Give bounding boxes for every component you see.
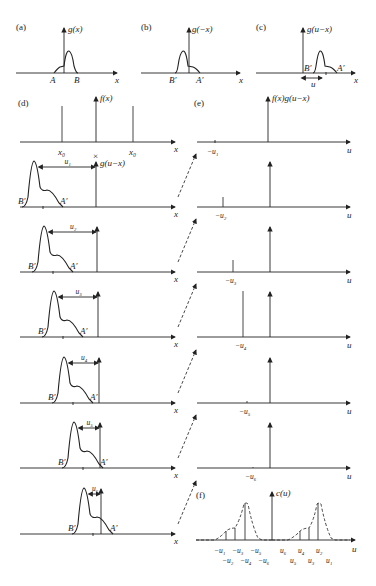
tick-label: −u₅ xyxy=(239,407,251,416)
tick: u₄ xyxy=(298,546,305,555)
shift-label: u₄ xyxy=(81,353,88,362)
panel-f-label: (f) xyxy=(196,490,205,500)
panel-a: (a) g(x) A B x xyxy=(16,22,119,85)
point-A-prime: A′ xyxy=(59,196,68,206)
panel-e-label: (e) xyxy=(194,98,204,108)
panel-a-label: (a) xyxy=(16,22,26,32)
convolution-steps: u₁B′A′xg(u−x)u₂B′A′xu₃B′A′xu₄B′A′xu₅B′A′… xyxy=(18,154,352,546)
step-connector-arrow xyxy=(178,350,196,393)
u-label: u xyxy=(347,275,352,285)
step-connector-arrow xyxy=(178,154,196,197)
step-row-5: u₅B′A′x xyxy=(20,415,196,480)
point-A-prime: A′ xyxy=(69,261,78,271)
point-A-prime: A′ xyxy=(79,326,88,336)
tick: u₂ xyxy=(316,546,323,555)
step-row-6: u₆B′A′x xyxy=(20,481,196,546)
u-label: u xyxy=(347,471,352,481)
tick-neg-u1: −u₁ xyxy=(207,147,219,156)
x-label: x xyxy=(114,75,119,85)
x-label: x xyxy=(173,536,178,546)
point-B: B xyxy=(74,75,80,85)
point-A-prime: A′ xyxy=(99,457,108,467)
product-row-6: −u₆u xyxy=(197,423,352,481)
y-label: f(x)g(u−x) xyxy=(272,93,310,103)
x-label: x xyxy=(238,75,243,85)
point-B-prime: B′ xyxy=(28,261,36,271)
panel-b-label: (b) xyxy=(141,22,152,32)
tick: u₃ xyxy=(308,556,315,565)
panel-e: (e) f(x)g(u−x) −u₁ u xyxy=(194,93,352,156)
tick: u₆ xyxy=(280,546,287,555)
x-label: x xyxy=(353,75,358,85)
y-label: c(u) xyxy=(276,488,291,498)
product-row-4: −u₄u xyxy=(197,291,352,350)
panel-d: (d) f(x) x₀ x₀ × x xyxy=(18,93,178,161)
point-B-prime: B′ xyxy=(68,523,76,533)
tick-x0: x₀ xyxy=(128,147,136,157)
u-label: u xyxy=(347,210,352,220)
tick-label: −u₄ xyxy=(235,341,247,350)
g-curve xyxy=(54,51,78,73)
point-A-prime: A′ xyxy=(195,75,204,85)
point-B-prime: B′ xyxy=(169,75,177,85)
point-A: A xyxy=(49,75,56,85)
panel-c: (c) g(u−x) B′ A′ u x xyxy=(256,22,358,89)
g-reversed-curve xyxy=(175,51,200,73)
product-row-3: −u₃u xyxy=(197,227,352,285)
step-row-2: u₂B′A′x xyxy=(20,219,196,284)
y-label: g(x) xyxy=(68,24,83,34)
tick-label: −u₆ xyxy=(245,472,257,481)
c-left-lobe xyxy=(196,503,272,540)
point-A-prime: A′ xyxy=(109,523,118,533)
product-row-5: −u₅u xyxy=(197,358,352,416)
tick: −u₃ xyxy=(232,546,244,555)
u-label: u xyxy=(347,340,352,350)
tick: −u₂ xyxy=(222,556,234,565)
point-B-prime: B′ xyxy=(18,196,26,206)
g-shifted-curve xyxy=(52,357,93,403)
point-B-prime: B′ xyxy=(38,326,46,336)
convolution-diagram: (a) g(x) A B x (b) g(−x) B′ A′ x (c) g(u… xyxy=(0,0,376,586)
shift-label: u₂ xyxy=(70,222,77,231)
tick: u₅ xyxy=(290,556,297,565)
step-connector-arrow xyxy=(178,415,196,458)
point-B-prime: B′ xyxy=(58,457,66,467)
g-shifted-curve xyxy=(42,291,83,337)
tick: u₁ xyxy=(326,556,333,565)
x-label: x xyxy=(173,339,178,349)
product-row-2: −u₂u xyxy=(197,162,352,220)
tick: −u₁ xyxy=(214,546,226,555)
tick: −u₆ xyxy=(258,556,270,565)
tick: −u₄ xyxy=(240,556,252,565)
shift-label: u₆ xyxy=(92,484,99,493)
u-label: u xyxy=(347,406,352,416)
y-label: g(u−x) xyxy=(307,24,332,34)
point-A-prime: A′ xyxy=(89,392,98,402)
tick: −u₅ xyxy=(250,546,262,555)
y-label: f(x) xyxy=(100,93,113,103)
g-shifted-curve xyxy=(313,51,337,73)
step-connector-arrow xyxy=(178,481,196,524)
point-B-prime: B′ xyxy=(304,63,312,73)
step-connector-arrow xyxy=(178,219,196,262)
shift-label: u₃ xyxy=(76,287,83,296)
x-label: x xyxy=(173,144,178,154)
point-A-prime: A′ xyxy=(336,63,345,73)
x-label: x xyxy=(173,405,178,415)
g-shifted-curve xyxy=(32,226,73,272)
x-label: x xyxy=(173,470,178,480)
y-label: g(−x) xyxy=(192,24,213,34)
shift-label: u xyxy=(311,79,316,89)
tick-label: −u₃ xyxy=(225,276,237,285)
step-row-1: u₁B′A′xg(u−x) xyxy=(18,154,196,219)
point-B-prime: B′ xyxy=(48,392,56,402)
panel-c-label: (c) xyxy=(256,22,266,32)
shift-label: u₅ xyxy=(87,418,94,427)
panel-b: (b) g(−x) B′ A′ x xyxy=(141,22,243,85)
u-label: u xyxy=(352,544,357,554)
shift-label: u₁ xyxy=(65,157,72,166)
x-label: x xyxy=(173,209,178,219)
panel-d-label: (d) xyxy=(18,98,29,108)
center-mark: × xyxy=(93,151,98,161)
step-row-4: u₄B′A′x xyxy=(20,350,196,415)
